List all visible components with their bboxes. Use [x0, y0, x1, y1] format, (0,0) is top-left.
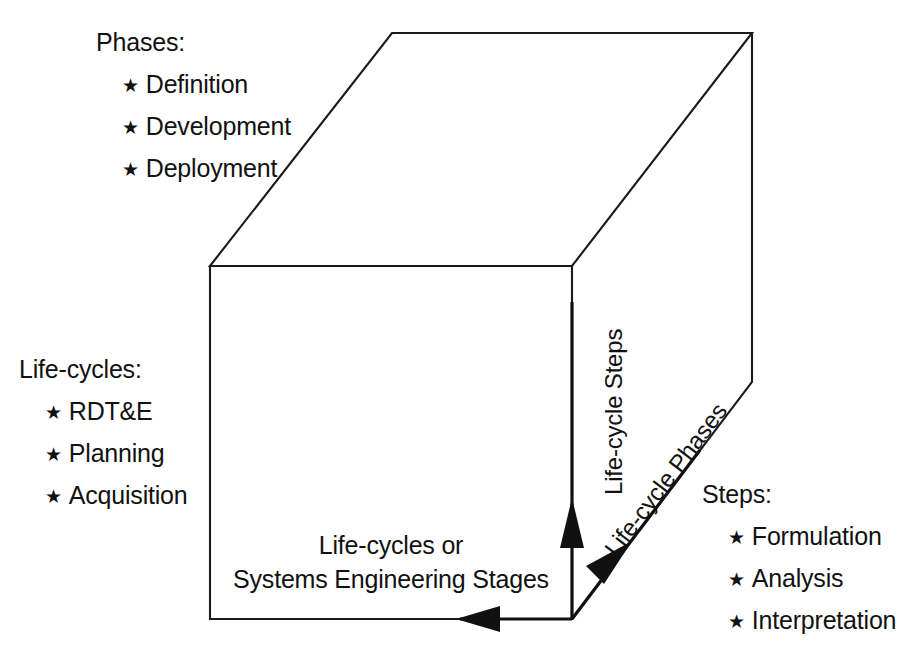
- steps-item-label: Formulation: [752, 522, 882, 551]
- star-icon: ★: [45, 445, 62, 464]
- star-icon: ★: [728, 570, 745, 589]
- phases-item-label: Deployment: [146, 154, 277, 183]
- steps-legend: Steps: ★ Formulation ★ Analysis ★ Interp…: [702, 480, 896, 635]
- lifecycles-item-0: ★ RDT&E: [19, 397, 188, 426]
- phases-item-label: Development: [146, 112, 291, 141]
- steps-item-1: ★ Analysis: [702, 564, 896, 593]
- lifecycles-heading: Life-cycles:: [19, 355, 188, 384]
- phases-item-0: ★ Definition: [96, 70, 291, 99]
- lifecycles-item-1: ★ Planning: [19, 439, 188, 468]
- steps-item-2: ★ Interpretation: [702, 606, 896, 635]
- star-icon: ★: [122, 160, 139, 179]
- star-icon: ★: [122, 76, 139, 95]
- lifecycles-item-label: Acquisition: [69, 481, 188, 510]
- cube-top-face-edge: [210, 33, 752, 266]
- front-caption-line-1: Life-cycles or: [210, 529, 572, 563]
- star-icon: ★: [728, 528, 745, 547]
- axis-label-life-cycle-steps: Life-cycle Steps: [600, 329, 628, 495]
- phases-item-label: Definition: [146, 70, 248, 99]
- lifecycles-item-2: ★ Acquisition: [19, 481, 188, 510]
- phases-item-1: ★ Development: [96, 112, 291, 141]
- phases-legend: Phases: ★ Definition ★ Development ★ Dep…: [96, 28, 291, 183]
- front-caption-line-2: Systems Engineering Stages: [210, 563, 572, 597]
- steps-item-label: Analysis: [752, 564, 844, 593]
- phases-item-2: ★ Deployment: [96, 154, 291, 183]
- horizontal-axis-arrow: [456, 606, 572, 632]
- lifecycles-legend: Life-cycles: ★ RDT&E ★ Planning ★ Acquis…: [19, 355, 188, 510]
- star-icon: ★: [122, 118, 139, 137]
- steps-heading: Steps:: [702, 480, 896, 509]
- phases-heading: Phases:: [96, 28, 291, 57]
- steps-item-label: Interpretation: [752, 606, 897, 635]
- star-icon: ★: [45, 487, 62, 506]
- front-face-caption: Life-cycles or Systems Engineering Stage…: [210, 529, 572, 597]
- star-icon: ★: [728, 612, 745, 631]
- steps-item-0: ★ Formulation: [702, 522, 896, 551]
- star-icon: ★: [45, 403, 62, 422]
- lifecycles-item-label: Planning: [69, 439, 165, 468]
- diagram-canvas: Phases: ★ Definition ★ Development ★ Dep…: [0, 0, 911, 655]
- lifecycles-item-label: RDT&E: [69, 397, 153, 426]
